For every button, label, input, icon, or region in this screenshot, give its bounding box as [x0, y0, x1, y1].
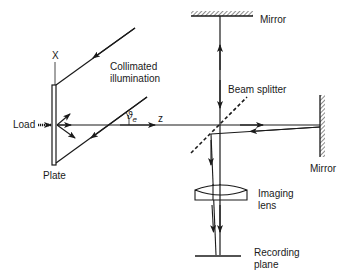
lens-label-line1: Imaging	[258, 188, 294, 200]
scatter-vector-down	[57, 125, 75, 138]
recording-label-line2: plane	[254, 259, 278, 271]
right-mirror-label: Mirror	[310, 163, 336, 175]
beam-splitter-label: Beam splitter	[228, 84, 286, 96]
plate	[52, 85, 56, 165]
collimated-ray-upper-arrow	[93, 28, 135, 58]
return-beam-right-arrow	[250, 127, 320, 132]
top-mirror-hatch	[191, 11, 253, 16]
theta-label: ϑe	[127, 110, 137, 126]
plate-label: Plate	[43, 170, 66, 182]
second-beam-arrow-2	[212, 205, 214, 232]
right-mirror-hatch	[320, 95, 325, 157]
load-label: Load	[13, 119, 35, 131]
collimated-ray-lower-arrow	[91, 97, 147, 138]
scatter-vector-up	[57, 114, 70, 125]
top-mirror-label: Mirror	[260, 14, 286, 26]
lens-label-line2: lens	[258, 200, 276, 212]
collimated-label-line1: Collimated	[110, 61, 157, 73]
z-axis-label: z	[158, 113, 163, 125]
x-axis-label: X	[52, 50, 59, 62]
collimated-label-line2: illumination	[110, 73, 160, 85]
interferometer-diagram	[0, 0, 345, 280]
imaging-lens	[195, 185, 247, 200]
recording-label-line1: Recording	[254, 247, 300, 259]
theta-subscript: e	[133, 115, 137, 124]
